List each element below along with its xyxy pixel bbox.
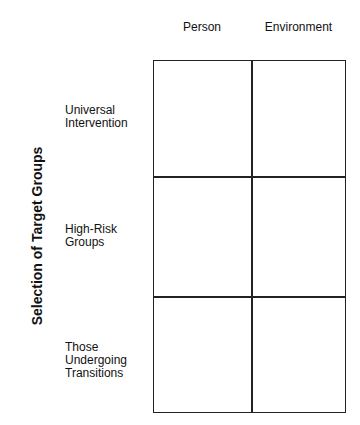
row-label-universal-intervention: Universal Intervention (65, 104, 150, 130)
axis-title-target-groups: Selection of Target Groups (29, 147, 45, 326)
column-divider (251, 61, 253, 412)
row-divider-1 (154, 176, 345, 178)
column-header-person: Person (153, 20, 251, 34)
row-label-high-risk-groups: High-Risk Groups (65, 223, 150, 249)
column-header-environment: Environment (251, 20, 346, 34)
matrix-grid (153, 60, 346, 413)
row-divider-2 (154, 296, 345, 298)
row-label-transitions: Those Undergoing Transitions (65, 341, 150, 380)
